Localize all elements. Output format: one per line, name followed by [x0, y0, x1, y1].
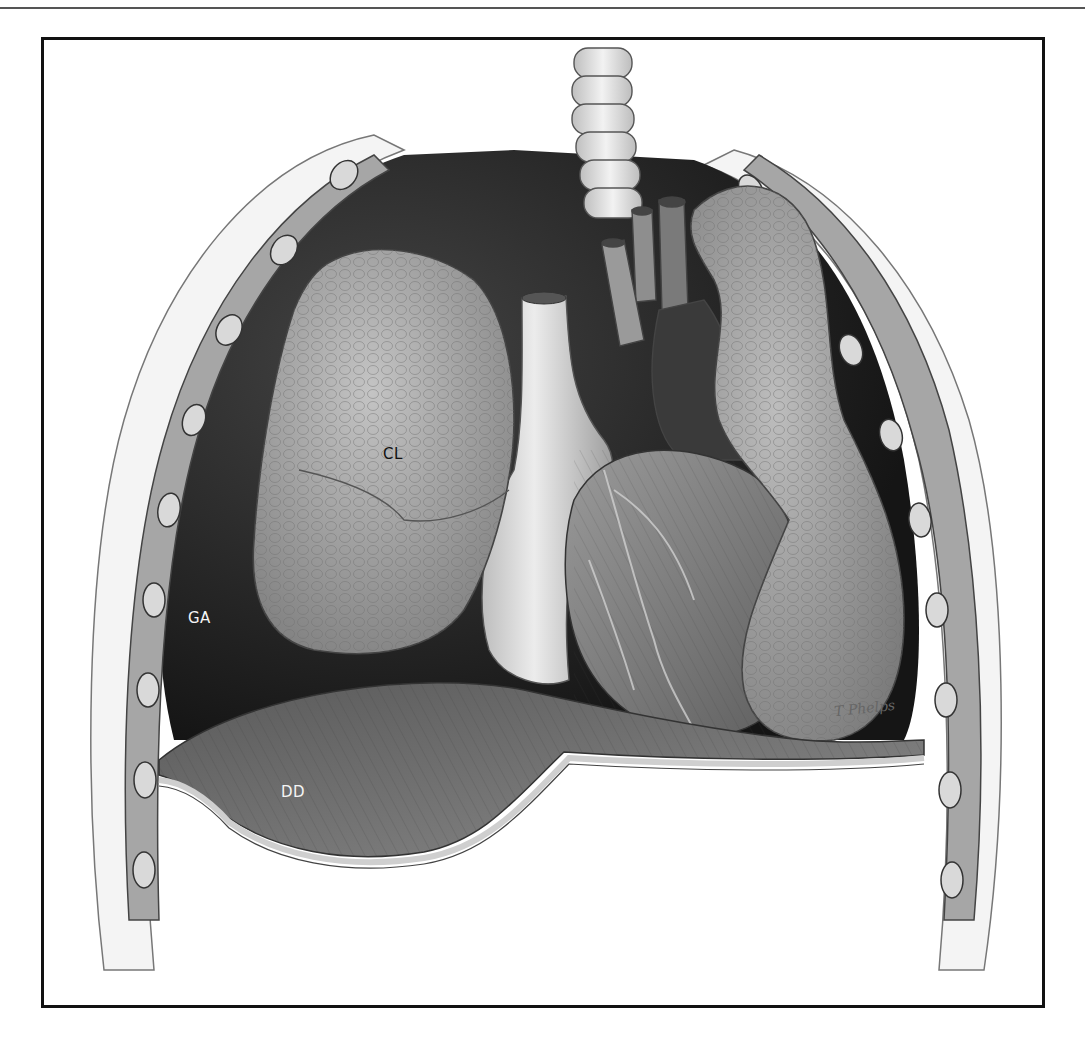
svc-opening [522, 292, 566, 304]
figure-frame: CL GA DD T Phelps [41, 37, 1045, 1008]
thorax-illustration [44, 40, 1042, 1005]
label-dd: DD [281, 783, 305, 801]
label-ga: GA [188, 609, 211, 627]
header-rule [0, 7, 1085, 9]
label-cl: CL [383, 445, 403, 463]
